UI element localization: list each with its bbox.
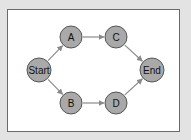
node-label: End — [143, 65, 161, 76]
edge-start-to-a — [48, 46, 63, 61]
node-end: End — [140, 58, 164, 82]
node-label: B — [68, 98, 75, 109]
node-label: C — [112, 32, 119, 43]
edge-c-to-end — [125, 45, 143, 61]
node-label: Start — [28, 65, 49, 76]
edges — [48, 37, 142, 103]
node-a: A — [60, 26, 82, 48]
node-label: D — [112, 98, 119, 109]
edge-start-to-b — [48, 79, 63, 94]
node-d: D — [105, 92, 127, 114]
node-c: C — [105, 26, 127, 48]
edge-d-to-end — [125, 79, 143, 95]
node-b: B — [60, 92, 82, 114]
node-start: Start — [27, 58, 51, 82]
node-label: A — [68, 32, 75, 43]
flow-graph: StartACEndBD — [0, 0, 191, 140]
nodes: StartACEndBD — [27, 26, 164, 114]
